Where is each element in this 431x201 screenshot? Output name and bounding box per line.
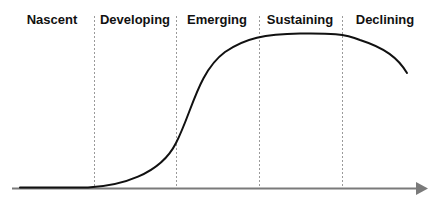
lifecycle-diagram: Nascent Developing Emerging Sustaining D… bbox=[0, 0, 431, 201]
stage-label-nascent: Nascent bbox=[27, 12, 78, 27]
stage-label-declining: Declining bbox=[356, 12, 415, 27]
x-axis-arrow-icon bbox=[416, 182, 428, 195]
diagram-canvas bbox=[0, 0, 431, 201]
stage-label-sustaining: Sustaining bbox=[267, 12, 333, 27]
lifecycle-curve bbox=[20, 33, 407, 187]
stage-label-emerging: Emerging bbox=[187, 12, 247, 27]
stage-label-developing: Developing bbox=[100, 12, 170, 27]
stage-dividers bbox=[95, 16, 343, 188]
